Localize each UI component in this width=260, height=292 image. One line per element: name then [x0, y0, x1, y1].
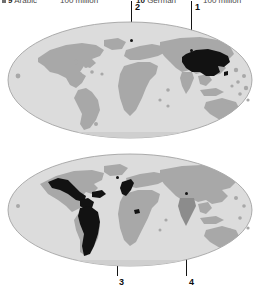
callout-endpoint-2 — [130, 39, 133, 42]
legend-speakers-arabic: 100 million — [60, 0, 98, 6]
legend-speakers-german: 100 million — [203, 0, 241, 6]
antarctica-hint-top — [20, 132, 240, 140]
callout-number-2: 2 — [135, 2, 140, 12]
new-zealand-top — [244, 116, 252, 124]
callout-number-1: 1 — [195, 2, 200, 12]
world-map-bottom — [0, 148, 260, 280]
callout-endpoint-1 — [190, 49, 193, 52]
callout-endpoint-4 — [185, 192, 188, 195]
legend-language-arabic: Arabic — [14, 0, 37, 5]
legend-strip: 9 Arabic 100 million 10 German 100 milli… — [0, 0, 260, 6]
legend-swatch-icon — [2, 0, 6, 3]
antarctica-hint-bottom — [20, 260, 240, 268]
callout-endpoint-3 — [116, 176, 119, 179]
legend-rank-9: 9 — [8, 0, 12, 5]
legend-language-german: German — [147, 0, 176, 5]
new-zealand-bottom — [244, 244, 252, 252]
legend-entry-arabic: 9 Arabic — [2, 0, 37, 6]
legend-entry-german: 10 German — [136, 0, 176, 6]
world-map-top — [0, 14, 260, 146]
